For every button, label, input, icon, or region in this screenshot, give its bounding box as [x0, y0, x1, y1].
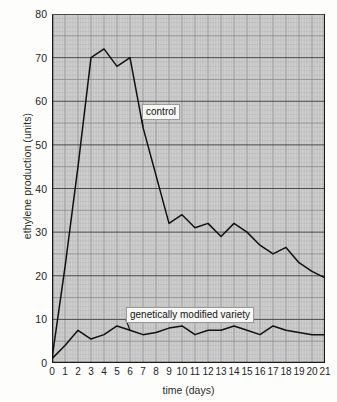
x-tick-label-10: 10 — [176, 366, 187, 377]
x-tick-label-19: 19 — [293, 366, 304, 377]
x-axis-title: time (days) — [52, 384, 325, 396]
x-tick-label-15: 15 — [241, 366, 252, 377]
x-tick-label-8: 8 — [153, 366, 159, 377]
x-axis-tick-labels: 0123456789101112131415161718192021 — [0, 0, 337, 402]
x-tick-label-14: 14 — [228, 366, 239, 377]
x-tick-label-7: 7 — [140, 366, 146, 377]
x-tick-label-21: 21 — [319, 366, 330, 377]
x-tick-label-1: 1 — [62, 366, 68, 377]
x-tick-label-16: 16 — [254, 366, 265, 377]
x-tick-label-12: 12 — [202, 366, 213, 377]
x-tick-label-9: 9 — [166, 366, 172, 377]
x-tick-label-3: 3 — [88, 366, 94, 377]
x-tick-label-0: 0 — [49, 366, 55, 377]
x-tick-label-20: 20 — [306, 366, 317, 377]
x-tick-label-11: 11 — [190, 366, 200, 377]
x-tick-label-5: 5 — [114, 366, 120, 377]
x-tick-label-4: 4 — [101, 366, 107, 377]
x-tick-label-6: 6 — [127, 366, 133, 377]
x-tick-label-13: 13 — [215, 366, 226, 377]
series-annotation-control: control — [142, 104, 180, 120]
ethylene-production-chart: ethylene production (units) 010203040506… — [0, 0, 337, 402]
x-tick-label-17: 17 — [267, 366, 278, 377]
series-annotation-gm-variety: genetically modified variety — [126, 307, 254, 323]
x-tick-label-2: 2 — [75, 366, 81, 377]
x-tick-label-18: 18 — [280, 366, 291, 377]
